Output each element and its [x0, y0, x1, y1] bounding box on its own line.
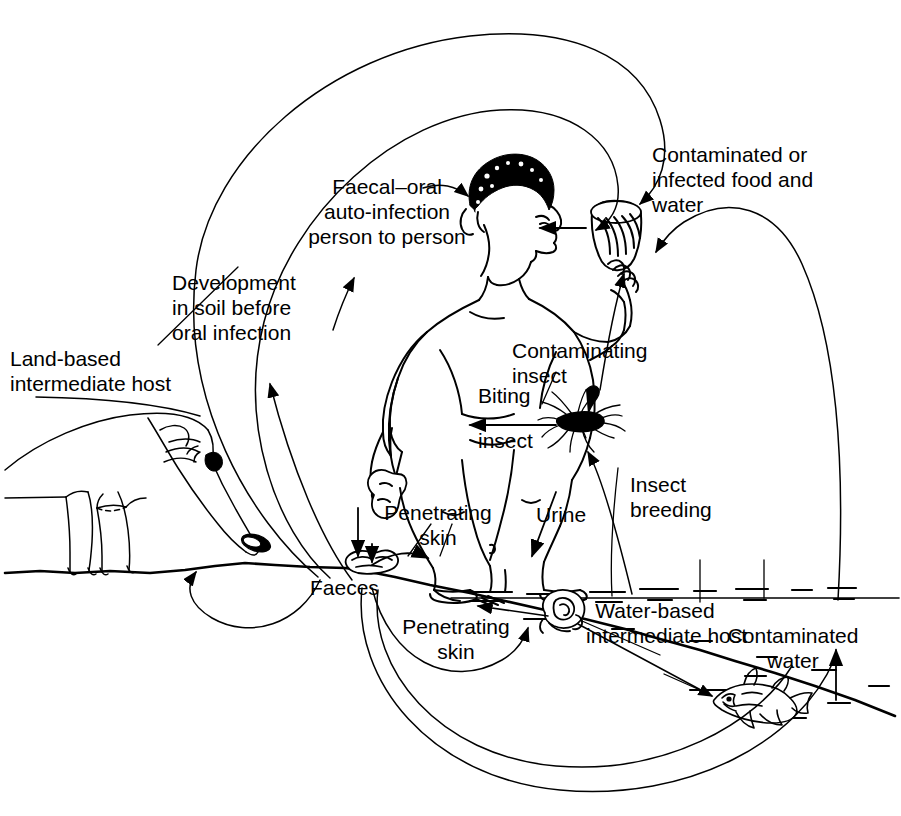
label-faeces: Faeces: [310, 575, 379, 600]
pig-figure: [5, 413, 273, 574]
label-faecal-oral: Faecal–oral auto-infection person to per…: [296, 174, 478, 249]
label-urine: Urine: [536, 502, 586, 527]
arrow-faeces-to-pig: [190, 572, 320, 628]
label-water-based-host: Water-based intermediate host: [586, 598, 724, 648]
label-contaminating-insect: Contaminating insect: [512, 338, 682, 388]
label-biting-insect-bottom: insect: [478, 428, 533, 453]
diagram-artwork: [0, 0, 901, 816]
mosquito-figure: [538, 386, 625, 452]
label-biting-insect-top: Biting: [478, 383, 531, 408]
arrow-faeces-to-development-in-soil: [270, 384, 352, 580]
arrow-contaminated-water-to-cup: [656, 208, 841, 600]
pointer-land-host-to-pig: [36, 397, 200, 416]
label-contaminated-food: Contaminated or infected food and water: [652, 142, 862, 217]
leader-insect-breeding: [611, 468, 618, 596]
label-insect-breeding: Insect breeding: [630, 472, 760, 522]
label-land-based-host: Land-based intermediate host: [10, 346, 226, 396]
label-penetrating-skin-upper: Penetrating skin: [372, 500, 504, 550]
transmission-diagram: Faecal–oral auto-infection person to per…: [0, 0, 901, 816]
arrow-insect-breeding: [588, 452, 632, 594]
label-development-in-soil: Development in soil before oral infectio…: [172, 270, 372, 345]
snail-figure: [540, 590, 585, 633]
label-contaminated-water: Contaminated water: [726, 623, 860, 673]
leader-water-host-2: [664, 674, 700, 690]
label-penetrating-skin-lower: Penetrating skin: [390, 614, 522, 664]
